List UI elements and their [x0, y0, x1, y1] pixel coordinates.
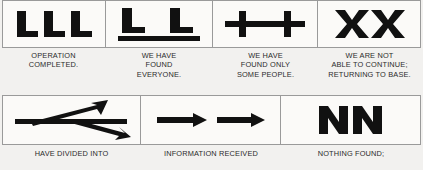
caption-found-everyone: WE HAVE FOUND EVERYONE.	[105, 48, 213, 79]
caption-have-divided-into: HAVE DIVIDED INTO	[2, 145, 141, 158]
signal-code-chart: OPERATION COMPLETED. WE HAVE FOUND EVERY…	[0, 0, 423, 170]
caption-information-received: INFORMATION RECEIVED	[141, 145, 281, 158]
double-n-symbol	[317, 105, 383, 135]
symbol-cell-returning-to-base	[318, 1, 421, 47]
caption-operation-completed: OPERATION COMPLETED.	[2, 48, 105, 79]
double-x-symbol	[333, 9, 405, 39]
bottom-row: HAVE DIVIDED INTO INFORMATION RECEIVED N…	[0, 95, 423, 158]
symbol-cell-found-some-people	[213, 1, 318, 47]
three-l-symbol	[15, 10, 93, 38]
top-row-captions: OPERATION COMPLETED. WE HAVE FOUND EVERY…	[2, 48, 421, 79]
two-l-with-underline-symbol	[116, 7, 202, 41]
bottom-row-captions: HAVE DIVIDED INTO INFORMATION RECEIVED N…	[2, 145, 421, 158]
two-right-arrows-symbol	[155, 111, 267, 129]
symbol-cell-found-everyone	[106, 1, 213, 47]
caption-nothing-found: NOTHING FOUND;	[281, 145, 421, 158]
symbol-cell-operation-completed	[3, 1, 106, 47]
double-plus-linked-symbol	[223, 9, 307, 39]
caption-found-some-people: WE HAVE FOUND ONLY SOME PEOPLE.	[213, 48, 318, 79]
top-row: OPERATION COMPLETED. WE HAVE FOUND EVERY…	[0, 0, 423, 79]
caption-returning-to-base: WE ARE NOT ABLE TO CONTINUE; RETURNING T…	[318, 48, 421, 79]
top-row-symbol-boxes	[2, 0, 421, 48]
forked-double-arrow-symbol	[13, 100, 131, 140]
symbol-cell-nothing-found	[281, 96, 420, 144]
bottom-row-symbol-boxes	[2, 95, 421, 145]
symbol-cell-have-divided-into	[3, 96, 141, 144]
symbol-cell-information-received	[141, 96, 280, 144]
